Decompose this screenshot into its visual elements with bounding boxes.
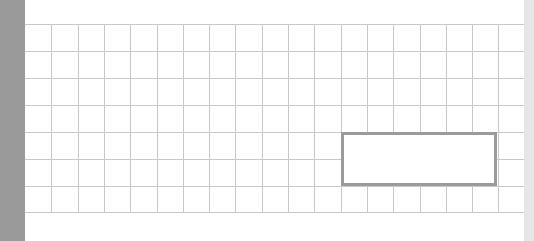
grid-column-line xyxy=(157,24,158,213)
grid-row-line xyxy=(25,78,524,79)
grid-column-line xyxy=(209,24,210,213)
grid-column-line xyxy=(51,24,52,213)
grid-column-line xyxy=(314,24,315,213)
grid-column-line xyxy=(130,24,131,213)
selection-rectangle[interactable] xyxy=(341,132,497,186)
grid-row-line xyxy=(25,51,524,52)
grid-column-line xyxy=(235,24,236,213)
grid-column-line xyxy=(498,24,499,213)
grid-row-line xyxy=(25,24,524,25)
grid-column-line xyxy=(104,24,105,213)
grid-row-line xyxy=(25,212,524,213)
grid-row-line xyxy=(25,105,524,106)
grid-row-line xyxy=(25,186,524,187)
grid-column-line xyxy=(262,24,263,213)
vertical-scrollbar[interactable] xyxy=(524,0,534,241)
grid-column-line xyxy=(288,24,289,213)
grid-column-line xyxy=(183,24,184,213)
left-sidebar-bar xyxy=(0,0,25,241)
grid-column-line xyxy=(78,24,79,213)
